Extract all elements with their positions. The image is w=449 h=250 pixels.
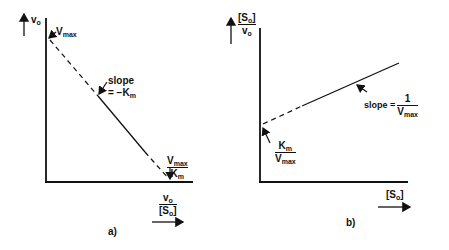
panel-b-dashed-line — [263, 106, 302, 124]
panel-a-caption: a) — [108, 227, 117, 237]
panel-a-slope-arrow-icon — [99, 82, 107, 94]
panel-a-x-intercept-label: Vmax Km — [167, 156, 188, 179]
panel-b-caption: b) — [346, 218, 355, 228]
panel-b-slope-arrow-icon — [357, 85, 367, 92]
panel-b-slope-label: slope = 1 Vmax — [364, 94, 418, 117]
panel-a-solid-line — [98, 96, 145, 152]
panel-a-graph — [24, 14, 193, 222]
panel-b-yint-arrow-icon — [263, 128, 270, 143]
panel-a-vmax-label: Vmax — [56, 27, 77, 37]
panel-b-y-intercept-label: Km Vmax — [275, 141, 296, 164]
panel-a-slope-label: slope = −Km — [108, 76, 136, 98]
panel-b-y-axis-label: [So] vo — [238, 13, 256, 36]
panel-a-dashed-top — [50, 40, 98, 96]
panel-b-x-axis-label: [So] — [386, 190, 404, 200]
panel-a-dashed-bottom — [145, 152, 168, 178]
panel-a-y-axis-label: vo — [31, 15, 41, 25]
panel-a-x-axis-label: vo [So] — [159, 193, 177, 216]
panel-a-vmax-arrow-icon — [49, 32, 56, 38]
